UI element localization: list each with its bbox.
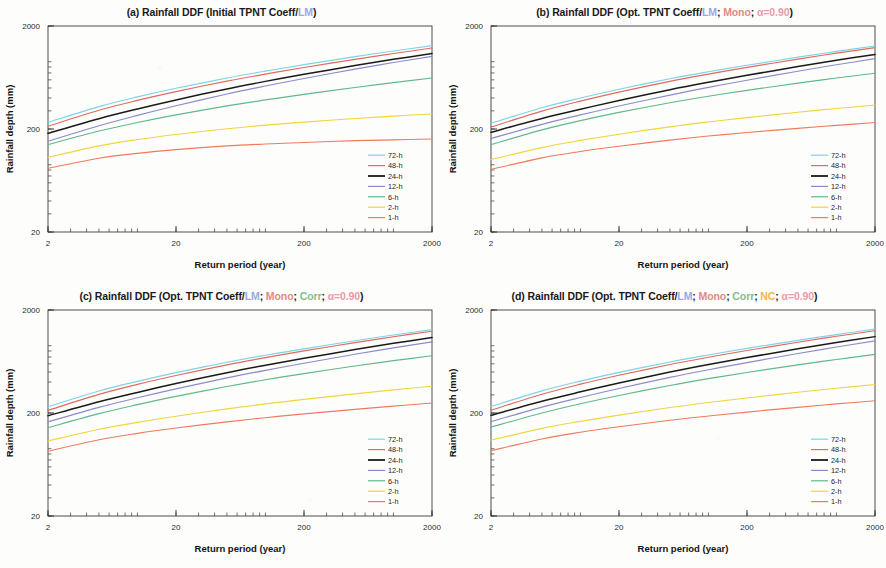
panel-c: (c) Rainfall DDF (Opt. TPNT Coeff/LM; Mo… (0, 284, 443, 568)
plot-frame (48, 310, 432, 516)
y-tick-label: 2000 (465, 306, 483, 315)
series-line-24-h (491, 337, 875, 416)
x-tick-label: 20 (172, 239, 181, 248)
chart-svg: 2020020002202002000Return period (year)R… (443, 284, 886, 568)
legend: 72-h48-h24-h12-h6-h2-h1-h (811, 151, 846, 222)
legend-label-48-h: 48-h (831, 161, 846, 170)
x-axis-label: Return period (year) (638, 543, 729, 554)
y-tick-label: 200 (470, 409, 484, 418)
panel-b: (b) Rainfall DDF (Opt. TPNT Coeff/LM; Mo… (443, 0, 886, 284)
y-tick-label: 2000 (22, 22, 40, 31)
legend-label-2-h: 2-h (831, 203, 842, 212)
series-line-6-h (48, 78, 432, 145)
legend-label-2-h: 2-h (388, 487, 399, 496)
legend-label-72-h: 72-h (831, 435, 846, 444)
panel-d: (d) Rainfall DDF (Opt. TPNT Coeff/LM; Mo… (443, 284, 886, 568)
x-tick-label: 2000 (866, 239, 884, 248)
y-tick-label: 200 (470, 125, 484, 134)
y-axis-label: Rainfall depth (mm) (4, 369, 15, 458)
x-tick-label: 2000 (423, 523, 441, 532)
x-tick-label: 20 (615, 523, 624, 532)
chart-svg: 2020020002202002000Return period (year)R… (0, 284, 443, 568)
series-line-2-h (48, 114, 432, 157)
legend-label-24-h: 24-h (831, 172, 846, 181)
legend-label-2-h: 2-h (388, 203, 399, 212)
x-axis-label: Return period (year) (195, 259, 286, 270)
y-tick-label: 200 (27, 125, 41, 134)
y-tick-label: 2000 (22, 306, 40, 315)
x-tick-label: 200 (297, 239, 311, 248)
legend-label-1-h: 1-h (831, 213, 842, 222)
x-tick-marks (48, 513, 432, 517)
x-axis-label: Return period (year) (638, 259, 729, 270)
x-tick-label: 2 (46, 239, 51, 248)
x-tick-label: 200 (740, 239, 754, 248)
legend-label-24-h: 24-h (388, 172, 403, 181)
series-line-24-h (491, 54, 875, 132)
x-tick-marks (48, 229, 432, 233)
plot-frame (491, 26, 875, 232)
legend: 72-h48-h24-h12-h6-h2-h1-h (368, 435, 403, 506)
x-axis-label: Return period (year) (195, 543, 286, 554)
legend-label-1-h: 1-h (388, 213, 399, 222)
panel-b-plot: 2020020002202002000Return period (year)R… (443, 0, 886, 284)
legend: 72-h48-h24-h12-h6-h2-h1-h (811, 435, 846, 506)
series-line-2-h (491, 105, 875, 160)
legend-label-12-h: 12-h (831, 466, 846, 475)
chart-svg: 2020020002202002000Return period (year)R… (443, 0, 886, 284)
legend-label-48-h: 48-h (831, 445, 846, 454)
legend-label-12-h: 12-h (831, 182, 846, 191)
x-tick-label: 200 (297, 523, 311, 532)
legend-label-6-h: 6-h (831, 477, 842, 486)
chart-svg: 2020020002202002000Return period (year)R… (0, 0, 443, 284)
legend-label-72-h: 72-h (388, 435, 403, 444)
panel-a-plot: 2020020002202002000Return period (year)R… (0, 0, 443, 284)
x-tick-label: 2 (489, 523, 494, 532)
panel-c-plot: 2020020002202002000Return period (year)R… (0, 284, 443, 568)
y-axis-label: Rainfall depth (mm) (447, 369, 458, 458)
series-line-72-h (48, 46, 432, 123)
legend-label-72-h: 72-h (831, 151, 846, 160)
x-tick-label: 2000 (423, 239, 441, 248)
series-line-12-h (48, 56, 432, 141)
figure-grid: (a) Rainfall DDF (Initial TPNT Coeff/LM)… (0, 0, 886, 568)
legend-label-1-h: 1-h (388, 497, 399, 506)
legend-label-48-h: 48-h (388, 445, 403, 454)
series-line-24-h (48, 338, 432, 416)
series-line-1-h (491, 401, 875, 451)
y-tick-label: 20 (474, 228, 483, 237)
legend-label-24-h: 24-h (831, 456, 846, 465)
plot-frame (491, 310, 875, 516)
legend-label-48-h: 48-h (388, 161, 403, 170)
y-tick-label: 2000 (465, 22, 483, 31)
panel-a: (a) Rainfall DDF (Initial TPNT Coeff/LM)… (0, 0, 443, 284)
series-line-72-h (491, 46, 875, 123)
x-tick-marks (491, 513, 875, 517)
series-line-1-h (48, 403, 432, 451)
series-line-72-h (48, 330, 432, 407)
x-tick-label: 200 (740, 523, 754, 532)
series-line-48-h (48, 48, 432, 126)
y-tick-label: 20 (31, 512, 40, 521)
x-tick-label: 2000 (866, 523, 884, 532)
series-line-12-h (491, 341, 875, 422)
legend-label-72-h: 72-h (388, 151, 403, 160)
legend-label-24-h: 24-h (388, 456, 403, 465)
legend-label-12-h: 12-h (388, 466, 403, 475)
x-tick-label: 2 (46, 523, 51, 532)
y-tick-label: 200 (27, 409, 41, 418)
y-tick-label: 20 (31, 228, 40, 237)
y-tick-label: 20 (474, 512, 483, 521)
series-line-72-h (491, 329, 875, 406)
legend-label-6-h: 6-h (388, 193, 399, 202)
x-tick-label: 20 (615, 239, 624, 248)
legend-label-2-h: 2-h (831, 487, 842, 496)
legend-label-6-h: 6-h (831, 193, 842, 202)
x-tick-label: 2 (489, 239, 494, 248)
y-axis-label: Rainfall depth (mm) (447, 85, 458, 174)
legend-label-12-h: 12-h (388, 182, 403, 191)
panel-d-plot: 2020020002202002000Return period (year)R… (443, 284, 886, 568)
series-line-48-h (491, 331, 875, 410)
legend-label-1-h: 1-h (831, 497, 842, 506)
legend-label-6-h: 6-h (388, 477, 399, 486)
